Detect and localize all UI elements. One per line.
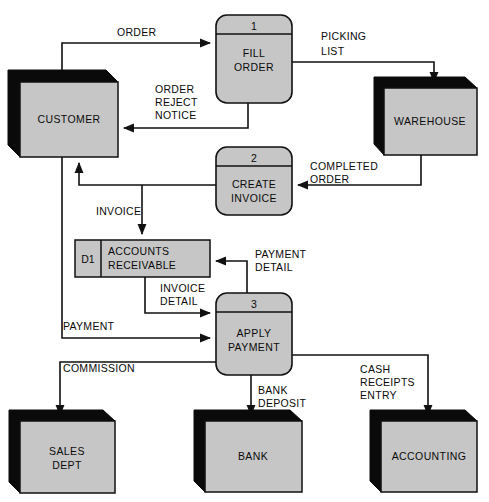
flow-order-label: ORDER (117, 26, 157, 38)
entity-bank[interactable]: BANK (194, 410, 302, 492)
process-create-invoice-label-1: CREATE (232, 178, 276, 190)
flow-payment-detail-line (216, 261, 247, 293)
process-create-invoice-label-2: INVOICE (231, 192, 277, 204)
datastore-accounts-receivable[interactable]: D1 ACCOUNTS RECEIVABLE (75, 240, 210, 277)
entity-warehouse[interactable]: WAREHOUSE (374, 77, 477, 155)
flow-bank-deposit-label-2: DEPOSIT (258, 397, 306, 409)
process-apply-payment[interactable]: 3 APPLY PAYMENT (216, 293, 292, 375)
entity-bank-label: BANK (238, 450, 268, 462)
flow-commission-label: COMMISSION (63, 362, 135, 374)
process-fill-order-number: 1 (251, 20, 257, 32)
flow-order-reject-label-2: REJECT (155, 96, 198, 108)
process-fill-order-label-2: ORDER (234, 61, 274, 73)
flow-payment-detail-label-1: PAYMENT (255, 248, 307, 260)
process-create-invoice[interactable]: 2 CREATE INVOICE (216, 147, 292, 215)
process-fill-order[interactable]: 1 FILL ORDER (216, 15, 292, 103)
flow-payment-detail: PAYMENT DETAIL (216, 248, 307, 293)
entity-sales-dept[interactable]: SALES DEPT (9, 410, 115, 493)
process-create-invoice-number: 2 (251, 152, 257, 164)
flow-picking-list-label-1: PICKING (321, 30, 366, 42)
process-apply-payment-number: 3 (251, 298, 257, 310)
flow-order-reject-label-1: ORDER (155, 83, 195, 95)
datastore-accounts-receivable-label-1: ACCOUNTS (108, 245, 169, 257)
entity-warehouse-label: WAREHOUSE (394, 115, 466, 127)
datastore-accounts-receivable-label-2: RECEIVABLE (108, 259, 176, 271)
flow-cash-receipts-label-1: CASH (360, 363, 390, 375)
process-apply-payment-label-2: PAYMENT (228, 341, 280, 353)
dfd-svg: ORDER PICKING LIST ORDER REJECT NOTICE C… (0, 0, 489, 502)
entity-customer[interactable]: CUSTOMER (8, 70, 118, 157)
flow-invoice-label: INVOICE (96, 205, 141, 217)
process-fill-order-label-1: FILL (243, 47, 266, 59)
flow-picking-list: PICKING LIST (292, 30, 434, 82)
flow-invoice-detail-label-1: INVOICE (160, 282, 205, 294)
flow-cash-receipts-label-3: ENTRY (360, 389, 397, 401)
process-apply-payment-label-1: APPLY (236, 327, 271, 339)
flow-invoice-customer-line (79, 163, 216, 185)
flow-payment-label: PAYMENT (63, 320, 115, 332)
entity-sales-dept-face (20, 421, 115, 493)
flow-commission: COMMISSION (60, 362, 216, 415)
flow-bank-deposit-label-1: BANK (258, 384, 288, 396)
dfd-canvas: ORDER PICKING LIST ORDER REJECT NOTICE C… (0, 0, 489, 502)
entity-sales-dept-label-2: DEPT (52, 459, 82, 471)
datastore-id-label: D1 (81, 253, 95, 265)
flow-invoice-detail: INVOICE DETAIL (145, 277, 210, 313)
flow-completed-order-label-2: ORDER (310, 173, 350, 185)
entity-customer-label: CUSTOMER (37, 113, 100, 125)
entity-accounting-label: ACCOUNTING (392, 450, 467, 462)
flow-invoice-to-customer: INVOICE (79, 163, 216, 217)
flow-bank-deposit: BANK DEPOSIT (251, 375, 306, 415)
flow-invoice-detail-label-2: DETAIL (160, 295, 198, 307)
flow-order-reject-label-3: NOTICE (155, 109, 196, 121)
entity-accounting[interactable]: ACCOUNTING (370, 410, 477, 492)
flow-picking-list-label-2: LIST (321, 45, 345, 57)
entity-sales-dept-label-1: SALES (49, 445, 85, 457)
flow-cash-receipts-label-2: RECEIPTS (360, 376, 415, 388)
flow-cash-receipts-entry: CASH RECEIPTS ENTRY (292, 355, 428, 415)
flow-completed-order-label-1: COMPLETED (310, 160, 378, 172)
flow-payment-detail-label-2: DETAIL (255, 261, 293, 273)
flow-completed-order: COMPLETED ORDER (298, 155, 421, 185)
